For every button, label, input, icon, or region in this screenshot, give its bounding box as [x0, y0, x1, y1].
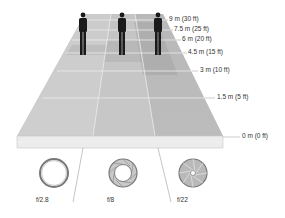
distance-label-4-5m: 4.5 m (15 ft) [188, 49, 223, 56]
aperture-wide-icon [40, 159, 68, 187]
aperture-label-f2-8: f/2.8 [36, 197, 49, 204]
distance-label-1-5m: 1.5 m (5 ft) [217, 94, 248, 101]
perspective-floor-plane [0, 0, 285, 218]
distance-label-3m: 3 m (10 ft) [200, 67, 230, 74]
aperture-label-f8: f/8 [107, 197, 114, 204]
depth-of-field-diagram: 9 m (30 ft) 7.5 m (25 ft) 6 m (20 ft) 4.… [0, 0, 285, 218]
aperture-medium-icon [109, 159, 137, 187]
distance-label-0m: 0 m (0 ft) [242, 133, 268, 140]
aperture-narrow-icon [179, 159, 207, 187]
distance-label-7-5m: 7.5 m (25 ft) [174, 26, 209, 33]
distance-label-6m: 6 m (20 ft) [182, 36, 212, 43]
distance-label-9m: 9 m (30 ft) [169, 16, 199, 23]
aperture-label-f22: f/22 [177, 197, 188, 204]
